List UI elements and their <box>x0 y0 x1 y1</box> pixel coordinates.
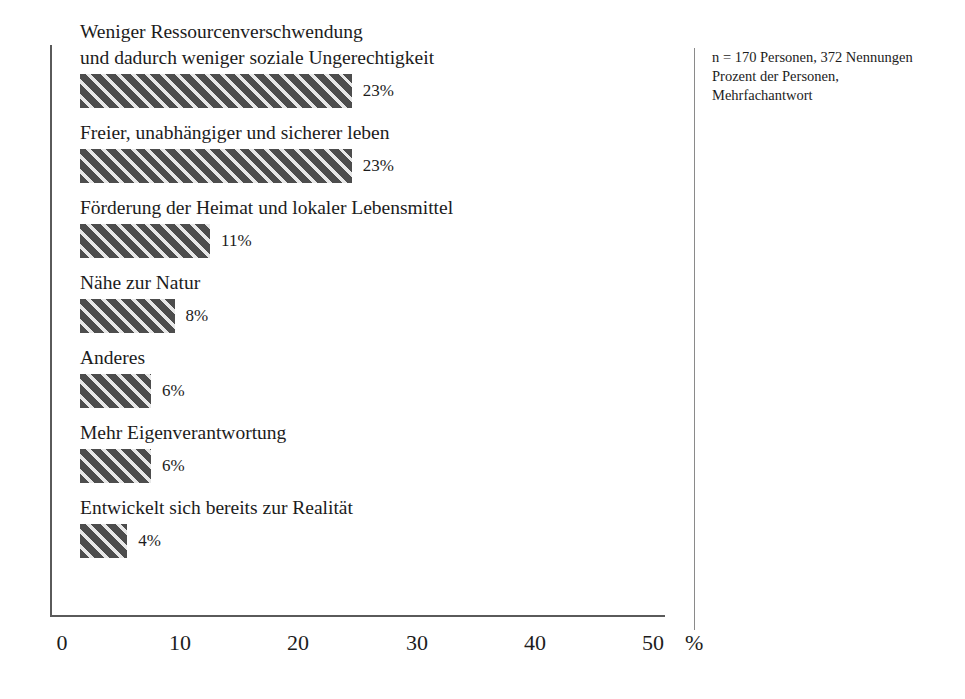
bar-value-label: 6% <box>162 456 185 476</box>
vertical-divider <box>694 48 695 630</box>
category-label: Weniger Ressourcenverschwendungund dadur… <box>80 19 434 71</box>
bar-value-label: 8% <box>186 306 209 326</box>
bar[interactable] <box>80 374 151 408</box>
x-axis-tick-label: 10 <box>169 630 191 656</box>
bar-wrapper: 23% <box>80 149 394 183</box>
bar[interactable] <box>80 224 210 258</box>
chart-note-line-3: Mehrfachantwort <box>712 86 962 105</box>
bar-row[interactable]: Förderung der Heimat und lokaler Lebensm… <box>52 195 665 270</box>
bar-wrapper: 6% <box>80 374 185 408</box>
category-label: Nähe zur Natur <box>80 270 200 296</box>
bar-value-label: 6% <box>162 381 185 401</box>
x-axis-tick-label: 30 <box>406 630 428 656</box>
chart-figure: Weniger Ressourcenverschwendungund dadur… <box>0 0 965 699</box>
bar-row[interactable]: Weniger Ressourcenverschwendungund dadur… <box>52 45 665 120</box>
bar-value-label: 23% <box>363 156 394 176</box>
x-axis-unit-label: % <box>685 630 703 656</box>
bar[interactable] <box>80 74 352 108</box>
category-label: Mehr Eigenverantwortung <box>80 420 286 446</box>
x-axis-tick-label: 40 <box>524 630 546 656</box>
bar-value-label: 11% <box>221 231 252 251</box>
x-axis: 0 10 20 30 40 50 % <box>0 630 965 670</box>
chart-note: n = 170 Personen, 372 Nennungen Prozent … <box>712 48 962 105</box>
category-label: Förderung der Heimat und lokaler Lebensm… <box>80 195 453 221</box>
bar-wrapper: 8% <box>80 299 208 333</box>
chart-note-line-2: Prozent der Personen, <box>712 67 962 86</box>
bar-row[interactable]: Freier, unabhängiger und sicherer leben … <box>52 120 665 195</box>
bar-wrapper: 6% <box>80 449 185 483</box>
chart-note-line-1: n = 170 Personen, 372 Nennungen <box>712 48 962 67</box>
category-label-line1: Weniger Ressourcenverschwendung <box>80 21 363 42</box>
bar[interactable] <box>80 449 151 483</box>
bar-row[interactable]: Mehr Eigenverantwortung 6% <box>52 420 665 495</box>
category-label: Anderes <box>80 345 145 371</box>
category-label: Entwickelt sich bereits zur Realität <box>80 495 353 521</box>
x-axis-tick-label: 0 <box>57 630 68 656</box>
bar-wrapper: 4% <box>80 524 161 558</box>
bar[interactable] <box>80 149 352 183</box>
bar[interactable] <box>80 524 127 558</box>
category-label: Freier, unabhängiger und sicherer leben <box>80 120 389 146</box>
bar-wrapper: 11% <box>80 224 252 258</box>
bar-row[interactable]: Anderes 6% <box>52 345 665 420</box>
plot-area: Weniger Ressourcenverschwendungund dadur… <box>50 45 665 617</box>
x-axis-tick-label: 20 <box>287 630 309 656</box>
x-axis-tick-label: 50 <box>642 630 664 656</box>
bar-wrapper: 23% <box>80 74 394 108</box>
bar-value-label: 4% <box>138 531 161 551</box>
category-label-line2: und dadurch weniger soziale Ungerechtigk… <box>80 47 434 68</box>
bar[interactable] <box>80 299 175 333</box>
bar-row[interactable]: Entwickelt sich bereits zur Realität 4% <box>52 495 665 570</box>
bar-row[interactable]: Nähe zur Natur 8% <box>52 270 665 345</box>
bar-value-label: 23% <box>363 81 394 101</box>
